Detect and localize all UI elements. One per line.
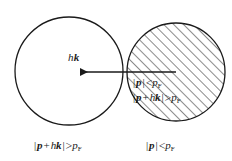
greater-than-sign: > <box>165 91 172 105</box>
abs-bar-close: | <box>61 139 65 151</box>
fermi-subscript: F <box>171 145 175 153</box>
abs-bar-close: | <box>155 139 159 151</box>
fermi-subscript: F <box>78 145 82 153</box>
abs-bar-close: | <box>160 91 164 103</box>
fermi-subscript: F <box>158 82 162 90</box>
abs-bar-close: | <box>142 76 146 88</box>
right-circle-hatch-fill <box>0 0 232 161</box>
inner-condition-momentum-below-fermi: |p|<pF <box>132 76 162 90</box>
less-than-sign: < <box>146 76 153 90</box>
fermi-subscript: F <box>177 97 181 105</box>
momentum-symbol: p <box>37 139 42 151</box>
plus-sign: + <box>142 91 150 103</box>
less-than-sign: < <box>159 139 166 153</box>
arrow-vector-label: hk <box>68 52 79 63</box>
fermi-sphere-figure: hk |p|<pF |p+hk|>pF |p+hk|>pF |p|<pF <box>0 0 232 161</box>
momentum-symbol: p <box>136 76 141 88</box>
plus-sign: + <box>43 139 51 151</box>
bottom-left-condition-label: |p+hk|>pF <box>33 139 82 153</box>
hatched-region-group <box>0 0 232 161</box>
momentum-symbol: p <box>149 139 154 151</box>
bottom-right-condition-label: |p|<pF <box>145 139 175 153</box>
greater-than-sign: > <box>66 139 73 153</box>
momentum-symbol: p <box>136 91 141 103</box>
diagram-canvas <box>0 0 232 161</box>
wavevector-symbol: k <box>74 51 80 63</box>
inner-condition-shifted-momentum-above-fermi: |p+hk|>pF <box>132 91 181 105</box>
